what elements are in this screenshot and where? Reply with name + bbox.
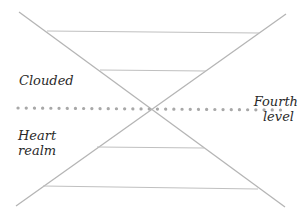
label-clouded: Clouded (19, 73, 74, 88)
label-fourth: Fourth (252, 94, 298, 109)
lower-level-line-2 (43, 186, 258, 189)
upper-level-line-1 (47, 31, 259, 33)
label-heart-realm: Heart realm (18, 128, 56, 158)
dotted-divider (18, 108, 282, 110)
upper-level-line-2 (100, 70, 206, 71)
label-level: level (252, 109, 298, 124)
label-realm: realm (18, 143, 56, 158)
diagram: Clouded Heart realm Fourth level (0, 0, 300, 217)
diagonal-line-ascending (16, 14, 286, 206)
label-heart: Heart (18, 128, 56, 143)
label-fourth-level: Fourth level (252, 94, 298, 124)
lower-level-line-1 (97, 147, 204, 148)
